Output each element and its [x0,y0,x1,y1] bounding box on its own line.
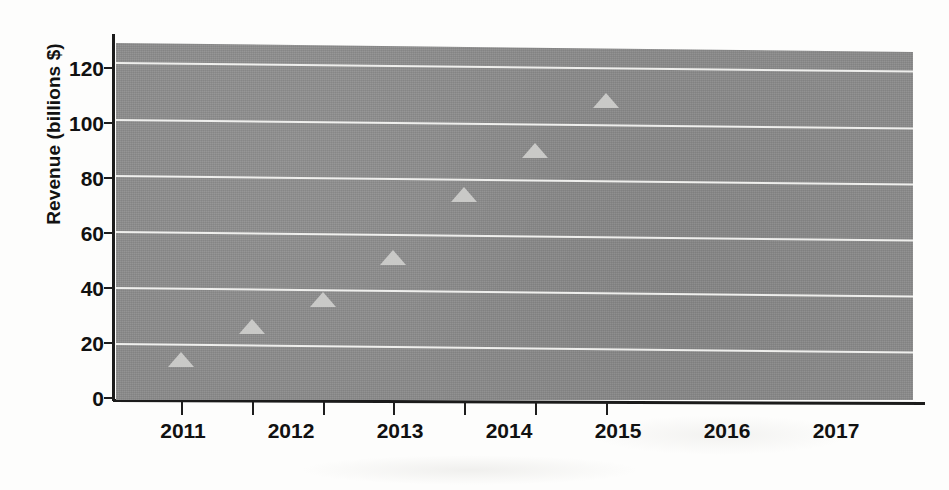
y-tick-label-120: 120 [42,58,104,79]
y-tick-label-20: 20 [42,333,104,354]
x-tick-label-2015: 2015 [573,419,663,443]
x-tick-mark-2014 [393,402,395,415]
data-point-2012 [239,319,265,334]
y-tick-label-60: 60 [42,223,104,244]
x-tick-mark-2013 [323,402,325,415]
y-axis-line [112,34,115,401]
x-tick-label-2017: 2017 [791,419,881,443]
x-tick-label-2016: 2016 [682,419,772,443]
y-tick-label-80: 80 [42,168,104,189]
data-point-2016 [522,143,548,158]
y-tick-label-100: 100 [42,113,104,134]
x-tick-mark-2011 [181,402,183,415]
x-tick-label-2013: 2013 [355,419,445,443]
y-tick-label-group: 120 100 80 60 40 20 0 [32,0,104,490]
data-point-2011 [168,352,194,367]
x-tick-label-2012: 2012 [246,419,336,443]
x-tick-mark-2012 [252,402,254,415]
plot-area [116,41,913,400]
data-point-2017 [593,93,619,108]
data-point-2014 [380,250,406,265]
y-tick-label-40: 40 [42,278,104,299]
data-point-2015 [451,187,477,202]
x-tick-label-2011: 2011 [138,419,228,443]
gridline-40 [116,287,913,298]
x-tick-mark-2017 [606,402,608,415]
gridline-100 [116,119,913,130]
gridline-20 [116,343,913,354]
y-tick-label-0: 0 [42,388,104,409]
x-tick-mark-2016 [535,402,537,415]
gridline-120 [116,62,913,73]
gridline-60 [116,231,913,242]
scan-artifact [300,455,640,485]
x-tick-mark-2015 [464,402,466,415]
gridline-80 [116,175,913,186]
x-tick-label-2014: 2014 [464,419,554,443]
data-point-2013 [310,292,336,307]
revenue-by-year-chart: Revenue (billions $) 120 100 80 60 40 20… [0,0,949,490]
